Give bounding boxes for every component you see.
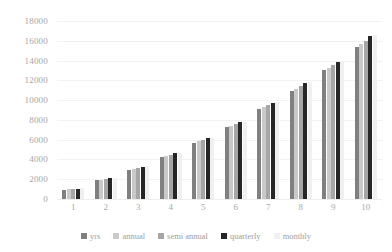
bar-yrs-8 (290, 91, 294, 199)
bar-annual-10 (359, 44, 363, 199)
x-axis: 12345678910 (57, 201, 382, 217)
bar-group (290, 21, 312, 199)
legend-label: semi annual (167, 232, 208, 241)
bar-annual-5 (197, 141, 201, 199)
y-axis-tick-label: 16000 (25, 36, 49, 45)
bar-annual-9 (327, 68, 331, 199)
bar-semi-annual-10 (364, 41, 368, 199)
bar-group (225, 21, 247, 199)
bar-group (127, 21, 149, 199)
bar-semi-annual-8 (299, 86, 303, 199)
bar-annual-7 (262, 107, 266, 199)
x-axis-tick-label: 3 (136, 201, 141, 213)
y-axis-tick-label: 4000 (29, 155, 48, 164)
legend-label: annual (122, 232, 145, 241)
bar-monthly-1 (80, 188, 84, 199)
bar-annual-4 (164, 156, 168, 200)
bar-quarterly-2 (108, 178, 112, 199)
bar-group (322, 21, 344, 199)
y-axis-tick-label: 12000 (25, 76, 49, 85)
bar-monthly-4 (178, 153, 182, 199)
bar-monthly-8 (308, 82, 312, 199)
y-axis-tick-label: 10000 (25, 96, 49, 105)
x-axis-tick-label: 10 (361, 201, 370, 213)
bar-semi-annual-2 (104, 179, 108, 199)
legend-swatch-icon (274, 233, 280, 239)
bar-yrs-1 (62, 190, 66, 199)
bar-quarterly-7 (271, 103, 275, 199)
legend-label: yrs (90, 232, 100, 241)
legend-swatch-icon (221, 233, 227, 239)
bar-semi-annual-4 (169, 155, 173, 200)
bar-quarterly-3 (141, 167, 145, 199)
legend-item-yrs[interactable]: yrs (81, 232, 100, 241)
bar-monthly-3 (145, 166, 149, 199)
x-axis-tick-label: 1 (71, 201, 76, 213)
bar-monthly-7 (275, 102, 279, 199)
legend-swatch-icon (158, 233, 164, 239)
bar-annual-8 (294, 89, 298, 199)
bar-yrs-5 (192, 143, 196, 199)
bar-group (160, 21, 182, 199)
bar-yrs-7 (257, 109, 261, 199)
legend-item-monthly[interactable]: monthly (274, 232, 311, 241)
bar-semi-annual-6 (234, 124, 238, 199)
x-axis-tick-label: 4 (169, 201, 174, 213)
bar-group (257, 21, 279, 199)
bar-annual-2 (99, 180, 103, 199)
bar-group (355, 21, 377, 199)
x-axis-tick-label: 8 (299, 201, 304, 213)
gridline (57, 199, 382, 200)
x-axis-tick-label: 5 (201, 201, 206, 213)
bar-quarterly-5 (206, 138, 210, 199)
x-axis-tick-label: 6 (234, 201, 239, 213)
legend-item-annual[interactable]: annual (113, 232, 145, 241)
y-axis-tick-label: 2000 (29, 175, 48, 184)
bar-semi-annual-9 (331, 65, 335, 199)
bar-chart: 0200040006000800010000120001400016000180… (0, 0, 392, 252)
x-axis-tick-label: 9 (331, 201, 336, 213)
bar-monthly-5 (210, 138, 214, 199)
bar-yrs-10 (355, 47, 359, 199)
chart-legend: yrsannualsemi annualquarterlymonthly (0, 228, 392, 244)
legend-item-semi-annual[interactable]: semi annual (158, 232, 208, 241)
bar-annual-3 (132, 169, 136, 199)
bar-yrs-6 (225, 127, 229, 199)
y-axis-tick-label: 0 (43, 195, 48, 204)
y-axis: 0200040006000800010000120001400016000180… (0, 21, 52, 199)
x-axis-tick-label: 2 (104, 201, 109, 213)
bar-group (95, 21, 117, 199)
bar-annual-6 (229, 126, 233, 199)
bar-group (62, 21, 84, 199)
y-axis-tick-label: 14000 (25, 56, 49, 65)
bar-yrs-9 (322, 70, 326, 199)
legend-item-quarterly[interactable]: quarterly (221, 232, 261, 241)
bar-yrs-4 (160, 157, 164, 199)
legend-label: quarterly (230, 232, 261, 241)
y-axis-tick-label: 8000 (29, 115, 48, 124)
bar-quarterly-1 (76, 189, 80, 199)
legend-label: monthly (283, 232, 311, 241)
bar-quarterly-6 (238, 122, 242, 199)
bar-semi-annual-7 (266, 105, 270, 199)
bar-monthly-9 (340, 61, 344, 199)
bar-annual-1 (67, 189, 71, 199)
bar-group (192, 21, 214, 199)
y-axis-tick-label: 6000 (29, 135, 48, 144)
bar-semi-annual-1 (71, 189, 75, 199)
bars-layer (57, 21, 382, 199)
bar-yrs-2 (95, 180, 99, 199)
bar-quarterly-9 (336, 62, 340, 199)
x-axis-tick-label: 7 (266, 201, 271, 213)
bar-quarterly-10 (368, 36, 372, 199)
y-axis-tick-label: 18000 (25, 17, 49, 26)
bar-monthly-10 (373, 35, 377, 199)
legend-swatch-icon (81, 233, 87, 239)
legend-swatch-icon (113, 233, 119, 239)
bar-monthly-2 (113, 178, 117, 199)
bar-semi-annual-3 (136, 168, 140, 199)
bar-monthly-6 (243, 122, 247, 199)
bar-semi-annual-5 (201, 140, 205, 199)
bar-yrs-3 (127, 170, 131, 199)
bar-quarterly-4 (173, 153, 177, 199)
